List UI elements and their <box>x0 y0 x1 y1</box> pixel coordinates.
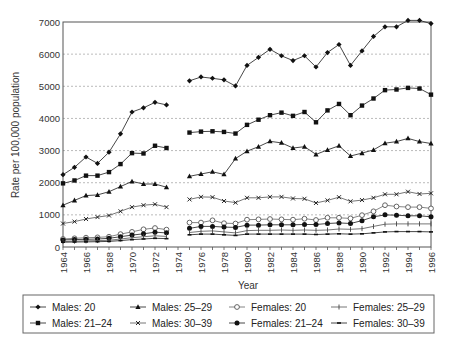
x-tick-label: 1990 <box>357 252 368 273</box>
legend-label: Males: 21–24 <box>52 318 112 329</box>
legend-label: Males: 30–39 <box>152 318 212 329</box>
legend-label: Females: 25–29 <box>353 302 425 313</box>
legend-label: Females: 20 <box>251 302 306 313</box>
series-males-21-24 <box>61 86 433 186</box>
legend-label: Males: 25–29 <box>152 302 212 313</box>
y-tick-label: 0 <box>55 242 60 253</box>
y-tick-label: 6000 <box>39 49 60 60</box>
x-axis-ticks: 1964196619681970197219741976197819801982… <box>58 247 437 273</box>
y-tick-label: 5000 <box>39 81 60 92</box>
x-tick-label: 1980 <box>242 252 253 273</box>
x-tick-label: 1996 <box>426 252 437 273</box>
grid-lines <box>63 54 431 215</box>
line-chart: 01000200030004000500060007000 1964196619… <box>0 0 456 351</box>
x-tick-label: 1992 <box>380 252 391 273</box>
x-tick-label: 1976 <box>196 252 207 273</box>
series-males-20 <box>60 18 433 177</box>
x-tick-label: 1994 <box>403 252 414 273</box>
series-females-20 <box>61 203 434 242</box>
legend-label: Females: 21–24 <box>251 318 323 329</box>
x-tick-label: 1966 <box>81 252 92 273</box>
x-tick-label: 1968 <box>104 252 115 273</box>
legend: Males: 20Males: 21–24Males: 25–29Males: … <box>23 295 434 333</box>
y-axis-ticks: 01000200030004000500060007000 <box>39 17 60 253</box>
x-tick-label: 1974 <box>173 252 184 273</box>
y-tick-label: 4000 <box>39 113 60 124</box>
y-tick-label: 3000 <box>39 145 60 156</box>
x-tick-label: 1986 <box>311 252 322 273</box>
y-tick-label: 2000 <box>39 177 60 188</box>
x-tick-label: 1984 <box>288 252 299 273</box>
x-tick-label: 1982 <box>265 252 276 273</box>
x-axis-title: Year <box>238 280 259 291</box>
data-series <box>60 18 433 244</box>
y-tick-label: 7000 <box>39 17 60 28</box>
y-tick-label: 1000 <box>39 209 60 220</box>
axes <box>63 22 431 247</box>
x-tick-label: 1970 <box>127 252 138 273</box>
x-tick-label: 1964 <box>58 252 69 273</box>
x-tick-label: 1988 <box>334 252 345 273</box>
legend-label: Males: 20 <box>52 302 96 313</box>
x-tick-label: 1978 <box>219 252 230 273</box>
y-axis-title: Rate per 100,000 population <box>10 72 21 198</box>
x-tick-label: 1972 <box>150 252 161 273</box>
legend-label: Females: 30–39 <box>353 318 425 329</box>
